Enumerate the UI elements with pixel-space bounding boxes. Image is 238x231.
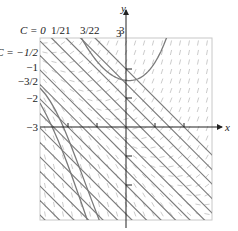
field-segment	[44, 183, 45, 188]
c-label: 3/2	[80, 24, 94, 36]
field-segment	[161, 60, 162, 65]
field-segment	[61, 98, 64, 102]
field-segment	[107, 183, 109, 188]
field-segment	[206, 88, 207, 93]
field-segment	[206, 136, 208, 141]
field-segment	[179, 69, 180, 74]
field-segment	[143, 50, 145, 55]
field-segment	[44, 154, 45, 159]
field-segment	[43, 79, 46, 83]
field-segment	[70, 107, 73, 111]
field-segment	[107, 211, 108, 216]
field-segment	[179, 88, 181, 93]
field-segment	[196, 174, 200, 177]
field-segment	[88, 108, 92, 111]
c-label: C = −1/2	[0, 46, 38, 58]
solution-line	[10, 127, 238, 230]
field-segment	[89, 211, 90, 216]
field-segment	[152, 50, 153, 55]
field-segment	[188, 98, 190, 103]
field-segment	[134, 69, 136, 74]
field-segment	[188, 50, 189, 55]
field-segment	[169, 146, 173, 149]
field-segment	[197, 98, 198, 103]
field-segment	[161, 107, 163, 112]
field-segment	[116, 212, 118, 217]
field-segment	[89, 155, 91, 160]
field-segment	[132, 128, 137, 129]
field-segment	[142, 165, 146, 168]
field-segment	[106, 118, 111, 120]
field-segment	[98, 174, 100, 179]
field-segment	[206, 155, 209, 160]
field-segment	[98, 164, 100, 169]
field-segment	[196, 165, 199, 169]
field-segment	[152, 40, 153, 45]
field-segment	[70, 61, 75, 63]
solution-line	[10, 40, 238, 230]
field-segment	[207, 40, 208, 45]
field-segment	[152, 79, 154, 84]
c-label: 1/2	[51, 24, 65, 36]
field-segment	[150, 147, 155, 148]
field-segment	[170, 88, 172, 93]
c-label: C = 0	[20, 24, 46, 36]
field-segment	[80, 145, 82, 150]
c-label: 3	[119, 24, 125, 36]
x-axis-label: x	[224, 121, 230, 133]
c-label: −3	[26, 121, 38, 133]
field-segment	[97, 109, 102, 111]
field-segment	[106, 145, 109, 149]
field-segment	[204, 213, 209, 214]
field-segment	[150, 157, 155, 158]
field-segment	[142, 107, 145, 111]
y-axis-label: y	[120, 2, 126, 14]
field-segment	[88, 80, 93, 82]
field-segment	[98, 193, 100, 198]
field-segment	[43, 70, 47, 73]
field-segment	[170, 50, 171, 55]
field-segment	[188, 59, 189, 64]
field-segment	[79, 99, 83, 102]
field-segment	[179, 98, 181, 103]
field-segment	[170, 40, 171, 45]
field-segment	[170, 98, 172, 103]
field-segment	[98, 145, 101, 149]
field-segment	[116, 50, 118, 55]
field-segment	[143, 193, 146, 197]
field-segment	[89, 41, 92, 45]
field-segment	[152, 69, 154, 74]
field-segment	[97, 80, 101, 83]
field-segment	[115, 99, 119, 102]
field-segment	[69, 80, 74, 81]
field-segment	[179, 117, 181, 122]
field-segment	[204, 204, 209, 205]
field-segment	[89, 136, 92, 140]
field-segment	[188, 78, 189, 83]
solution-line	[10, 171, 238, 231]
field-segment	[170, 117, 172, 122]
field-segment	[188, 69, 189, 74]
field-segment	[187, 212, 191, 215]
field-segment	[151, 174, 155, 177]
field-segment	[53, 164, 54, 169]
field-segment	[71, 192, 72, 197]
field-segment	[160, 136, 164, 139]
field-segment	[197, 145, 200, 150]
field-segment	[206, 107, 207, 112]
field-segment	[206, 78, 207, 83]
field-segment	[134, 41, 136, 46]
field-segment	[116, 41, 118, 46]
field-segment	[97, 118, 101, 121]
field-segment	[52, 88, 55, 92]
field-segment	[161, 98, 163, 103]
field-segment	[179, 50, 180, 55]
field-segment	[186, 195, 191, 196]
field-segment	[62, 202, 63, 207]
field-segment	[53, 145, 55, 150]
field-segment	[161, 212, 164, 217]
field-segment	[61, 41, 65, 44]
field-segment	[42, 52, 47, 53]
field-segment	[44, 98, 46, 103]
field-segment	[44, 136, 46, 141]
